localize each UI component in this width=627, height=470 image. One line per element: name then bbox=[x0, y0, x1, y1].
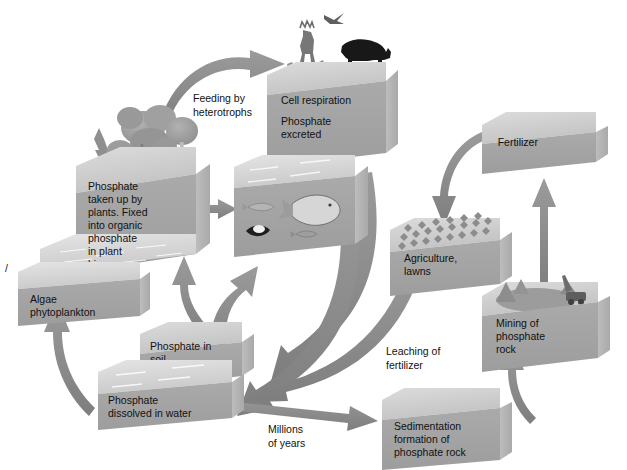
scan-artifact-mark: / bbox=[5, 262, 8, 274]
flow-label-layer: Feeding by heterotrophs Leaching of fert… bbox=[0, 0, 627, 470]
flow-label-millions-of-years: Millions of years bbox=[0, 0, 323, 449]
flow-label-feeding: Feeding by heterotrophs bbox=[0, 0, 267, 118]
phosphorus-cycle-diagram: Phosphate taken up by plants. Fixed into… bbox=[0, 0, 627, 470]
flow-label-leaching: Leaching of fertilizer bbox=[0, 0, 461, 371]
